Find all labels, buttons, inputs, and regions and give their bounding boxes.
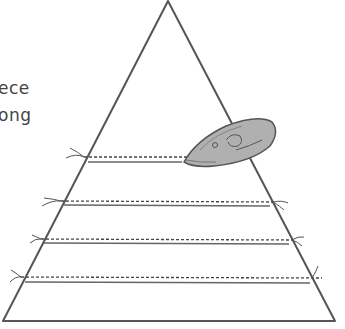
- seam-4: [10, 266, 322, 283]
- seam-3: [30, 235, 304, 246]
- seam-1: [66, 148, 187, 162]
- fabric-triangle: [3, 1, 335, 321]
- pressing-seams-diagram: [0, 0, 345, 329]
- seam-2: [42, 198, 288, 210]
- iron-icon: [184, 119, 276, 167]
